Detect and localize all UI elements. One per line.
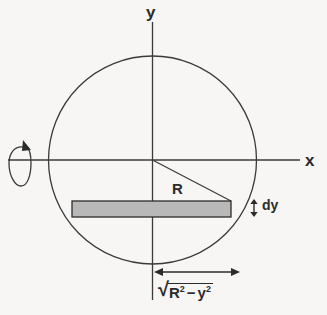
radicand: R2−y2 xyxy=(168,283,213,300)
radicand-R: R xyxy=(169,284,180,301)
double-headed-vertical-arrow-icon xyxy=(250,199,257,217)
strip-element xyxy=(72,201,231,217)
x-axis-label: x xyxy=(305,152,314,169)
dy-label: dy xyxy=(262,198,278,212)
rotation-arrow-icon xyxy=(9,140,31,186)
rotating-disk-diagram: y x R dy √ R2−y2 xyxy=(0,0,327,315)
radius-label: R xyxy=(172,181,183,196)
radicand-y: y xyxy=(198,284,206,301)
radicand-minus: − xyxy=(185,284,198,301)
radius-line xyxy=(153,160,232,201)
diagram-canvas xyxy=(0,0,327,315)
radicand-y-exponent: 2 xyxy=(206,284,211,294)
y-axis-label: y xyxy=(146,4,155,21)
double-headed-horizontal-arrow-icon xyxy=(154,268,240,276)
half-chord-length-label: √ R2−y2 xyxy=(158,283,213,300)
radical-sign: √ xyxy=(158,282,169,296)
